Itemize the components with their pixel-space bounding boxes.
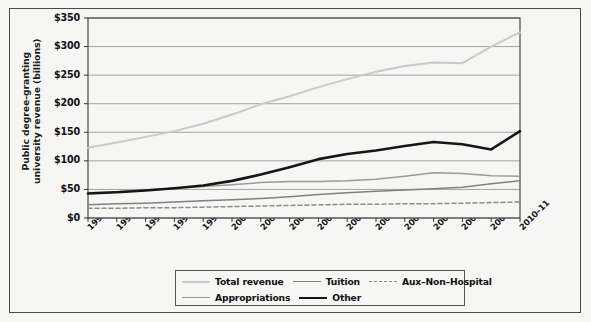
legend-entry-appropriations: Appropriations — [182, 292, 290, 303]
legend-entry-other: Other — [299, 292, 361, 303]
legend-label: Aux–Non–Hospital — [402, 276, 492, 287]
legend-entry-aux-non-hospital: Aux–Non–Hospital — [369, 276, 492, 287]
legend-entry-total-revenue: Total revenue — [182, 276, 284, 287]
legend-swatch-icon — [369, 276, 397, 286]
legend-entry-tuition: Tuition — [293, 276, 360, 287]
figure-canvas: Public degree-granting university revenu… — [0, 0, 591, 322]
legend-swatch-icon — [293, 276, 321, 286]
legend-swatch-icon — [182, 292, 210, 302]
legend-label: Total revenue — [215, 276, 284, 287]
legend-swatch-icon — [182, 276, 210, 286]
legend-label: Tuition — [326, 276, 360, 287]
legend-swatch-icon — [299, 292, 327, 302]
legend: Total revenueTuitionAux–Non–Hospital App… — [175, 270, 465, 306]
legend-label: Appropriations — [215, 292, 290, 303]
legend-label: Other — [332, 292, 361, 303]
legend-row-top: Total revenueTuitionAux–Non–Hospital — [182, 273, 501, 289]
legend-row-bottom: AppropriationsOther — [182, 289, 370, 305]
